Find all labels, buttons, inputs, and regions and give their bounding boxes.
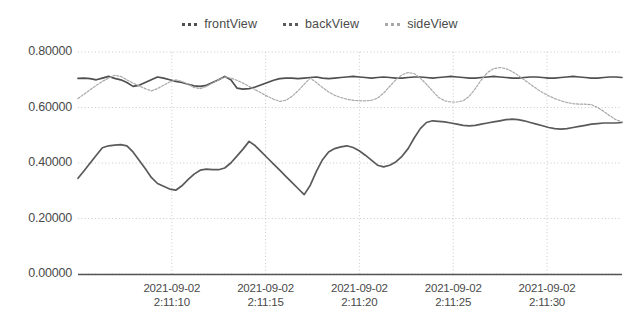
x-tick-label: 2021-09-022:11:30 [492, 281, 602, 310]
x-tick-date: 2021-09-02 [492, 281, 602, 295]
y-tick-label: 0.20000 [0, 212, 72, 225]
y-tick-label: 0.40000 [0, 156, 72, 169]
y-tick-label: 0.80000 [0, 45, 72, 58]
series-line-sideview [78, 68, 622, 122]
y-tick-label: 0.00000 [0, 267, 72, 280]
y-tick-label: 0.60000 [0, 101, 72, 114]
plot-area: 0.800000.600000.400000.200000.00000 2021… [0, 0, 640, 330]
line-chart: frontView backView sideView 0.800000.600… [0, 0, 640, 330]
series-lines [78, 68, 622, 195]
series-line-backview [78, 119, 622, 194]
gridlines [78, 52, 622, 274]
x-tick-time: 2:11:30 [492, 295, 602, 309]
